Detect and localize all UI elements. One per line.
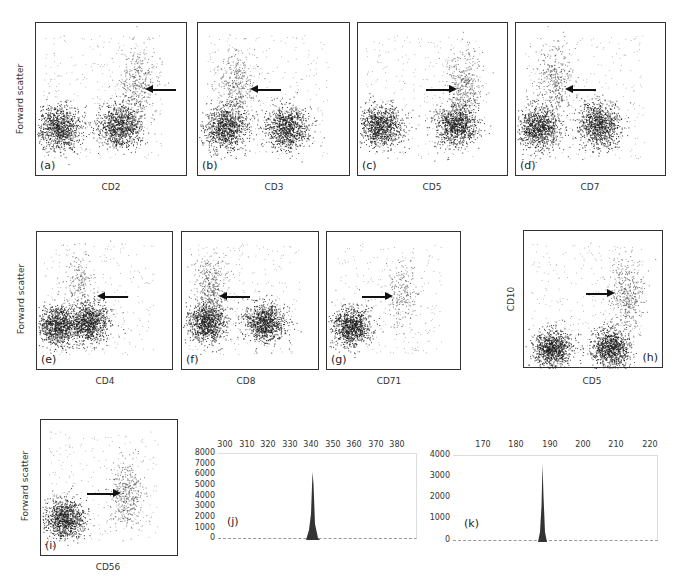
scatter-density-h: [524, 231, 664, 369]
scatter-panel-i: (i): [40, 419, 178, 556]
arrow-b: [257, 89, 281, 91]
scatter-density-g: [327, 232, 462, 371]
panel-label-i: (i): [45, 539, 57, 552]
histogram-j-peak: [218, 454, 417, 540]
scatter-panel-b: (b): [197, 22, 350, 176]
x-axis-label-b: CD3: [214, 182, 334, 192]
x-axis-label-a: CD2: [51, 182, 171, 192]
y-tick: 2000: [420, 492, 450, 501]
x-axis-label-i: CD56: [48, 562, 168, 572]
x-tick: 300: [213, 440, 237, 449]
scatter-panel-g: (g): [326, 231, 461, 370]
y-tick: 3000: [185, 501, 215, 510]
scatter-panel-f: (f): [181, 231, 319, 370]
x-tick: 200: [571, 440, 595, 449]
panel-label-c: (c): [362, 159, 377, 172]
panel-label-b: (b): [202, 159, 218, 172]
scatter-density-a: [36, 23, 188, 177]
x-axis-label-e: CD4: [45, 376, 165, 386]
x-tick: 340: [299, 440, 323, 449]
y-axis-label-a: Forward scatter: [15, 49, 25, 149]
arrow-h: [586, 293, 608, 295]
x-tick: 380: [385, 440, 409, 449]
arrow-e: [104, 296, 128, 298]
histogram-k: (k) 4000 3000 2000 1000 0 170 180 190 20…: [420, 440, 670, 550]
x-tick: 210: [604, 440, 628, 449]
scatter-density-i: [41, 420, 179, 557]
scatter-density-f: [182, 232, 320, 371]
x-tick: 360: [342, 440, 366, 449]
panel-label-h: (h): [642, 351, 658, 364]
x-axis-label-f: CD8: [186, 376, 306, 386]
panel-label-d: (d): [520, 159, 536, 172]
y-tick: 4000: [185, 491, 215, 500]
y-tick: 8000: [185, 448, 215, 457]
y-tick: 3000: [420, 471, 450, 480]
scatter-panel-h: (h): [523, 230, 663, 368]
x-tick: 180: [504, 440, 528, 449]
x-tick: 190: [538, 440, 562, 449]
histogram-j: (j) 8000 7000 6000 5000 4000 3000 2000 1…: [185, 440, 425, 550]
y-tick: 1000: [185, 523, 215, 532]
scatter-density-e: [37, 232, 174, 371]
scatter-density-b: [198, 23, 351, 177]
x-axis-label-g: CD71: [329, 376, 449, 386]
panel-label-f: (f): [186, 353, 198, 366]
arrow-a: [152, 89, 176, 91]
y-tick: 2000: [185, 512, 215, 521]
y-tick: 0: [185, 533, 215, 542]
arrow-f: [226, 296, 250, 298]
x-tick: 320: [256, 440, 280, 449]
x-tick: 170: [471, 440, 495, 449]
arrow-c: [426, 89, 450, 91]
scatter-panel-e: (e): [36, 231, 173, 370]
y-tick: 1000: [420, 513, 450, 522]
panel-label-a: (a): [40, 159, 55, 172]
scatter-density-d: [516, 23, 667, 177]
panel-label-k: (k): [464, 517, 479, 530]
x-axis-label-c: CD5: [372, 182, 492, 192]
histogram-j-plot: [218, 453, 417, 539]
y-axis-label-i: Forward scatter: [20, 436, 30, 536]
y-tick: 6000: [185, 469, 215, 478]
x-axis-label-h: CD5: [532, 376, 652, 386]
histogram-k-plot: [453, 455, 658, 541]
x-tick: 220: [638, 440, 662, 449]
x-axis-label-d: CD7: [530, 182, 650, 192]
y-tick: 7000: [185, 459, 215, 468]
y-tick: 4000: [420, 450, 450, 459]
scatter-panel-a: (a): [35, 22, 187, 176]
scatter-density-c: [358, 23, 509, 177]
panel-label-g: (g): [331, 353, 347, 366]
scatter-panel-c: (c): [357, 22, 508, 176]
arrow-i: [87, 493, 114, 495]
y-axis-label-h: CD10: [506, 249, 516, 349]
y-tick: 0: [420, 535, 450, 544]
arrow-g: [362, 296, 386, 298]
panel-label-j: (j): [227, 515, 239, 528]
y-axis-label-e: Forward scatter: [16, 249, 26, 349]
panel-label-e: (e): [41, 353, 56, 366]
arrow-d: [572, 89, 596, 91]
scatter-panel-d: (d): [515, 22, 666, 176]
y-tick: 5000: [185, 480, 215, 489]
histogram-k-peak: [453, 456, 658, 542]
